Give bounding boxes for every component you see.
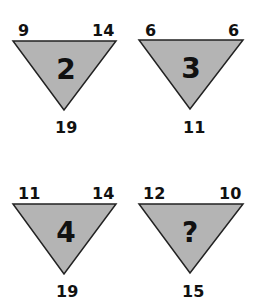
triangle-4-bottom: 15 <box>182 284 204 300</box>
triangle-3-bottom: 19 <box>56 284 78 300</box>
triangle-4-top-right: 10 <box>219 186 241 202</box>
triangle-3-center: 4 <box>56 219 75 247</box>
triangle-4-top-left: 12 <box>143 186 165 202</box>
triangle-shapes <box>0 0 260 305</box>
triangle-3-top-right: 14 <box>92 186 114 202</box>
triangle-2-top-left: 6 <box>145 23 156 39</box>
triangle-3-top-left: 11 <box>18 186 40 202</box>
triangle-1-top-right: 14 <box>92 23 114 39</box>
triangle-1-bottom: 19 <box>55 120 77 136</box>
triangle-2-top-right: 6 <box>228 23 239 39</box>
triangle-1-center: 2 <box>56 56 75 84</box>
triangle-2-center: 3 <box>181 55 200 83</box>
triangle-2-bottom: 11 <box>183 120 205 136</box>
triangle-1-top-left: 9 <box>18 23 29 39</box>
number-triangle-puzzle: 9 14 2 19 6 6 3 11 11 14 4 19 12 10 ? 15 <box>0 0 260 305</box>
triangle-4-center-unknown: ? <box>182 219 198 247</box>
